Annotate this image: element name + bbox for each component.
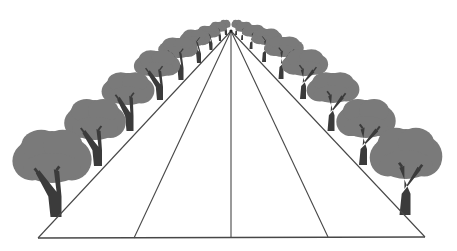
tree-canopy	[134, 50, 180, 77]
tree-canopy	[282, 49, 328, 76]
tree-canopy	[307, 72, 360, 103]
left-tree-row	[12, 20, 230, 217]
right-tree-row	[232, 20, 443, 215]
tree-canopy	[12, 130, 91, 183]
road-baseline	[38, 237, 425, 238]
left-tree	[12, 130, 91, 217]
right-tree	[370, 128, 443, 215]
perspective-road-illustration	[0, 0, 457, 251]
perspective-diagram	[0, 0, 457, 251]
vanishing-point	[229, 29, 232, 32]
tree-canopy	[370, 128, 443, 179]
